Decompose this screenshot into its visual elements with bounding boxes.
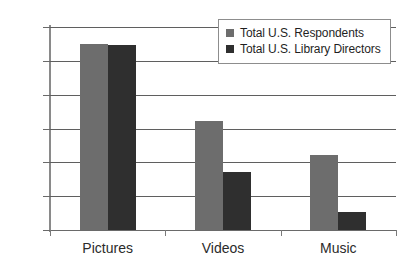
- y-axis-tick: [43, 162, 50, 163]
- gridline: [50, 230, 396, 231]
- y-axis-tick: [43, 129, 50, 130]
- bar-chart: 0%10%20%30%40%50%60% PicturesVideosMusic…: [0, 0, 410, 273]
- chart-legend: Total U.S. Respondents Total U.S. Librar…: [218, 19, 391, 64]
- y-axis-tick: [43, 95, 50, 96]
- x-axis-tick: [396, 230, 397, 236]
- y-axis-tick: [43, 196, 50, 197]
- legend-item-library-directors: Total U.S. Library Directors: [226, 41, 381, 57]
- legend-swatch-gray-icon: [226, 29, 234, 37]
- x-axis-tick: [281, 230, 282, 236]
- bar-music-series-0: [310, 155, 338, 230]
- x-axis-label-pictures: Pictures: [82, 240, 133, 256]
- y-axis-tick: [43, 230, 50, 231]
- bar-pictures-series-1: [108, 45, 136, 230]
- bar-videos-series-0: [195, 121, 223, 230]
- x-axis-label-videos: Videos: [202, 240, 245, 256]
- y-axis-tick: [43, 27, 50, 28]
- legend-label-respondents: Total U.S. Respondents: [240, 25, 364, 41]
- x-axis-label-music: Music: [320, 240, 357, 256]
- bar-music-series-1: [338, 212, 366, 230]
- x-axis-tick: [50, 230, 51, 236]
- bar-videos-series-1: [223, 172, 251, 230]
- legend-label-library-directors: Total U.S. Library Directors: [240, 41, 381, 57]
- bar-pictures-series-0: [80, 44, 108, 230]
- y-axis-tick: [43, 61, 50, 62]
- legend-swatch-dark-icon: [226, 45, 234, 53]
- x-axis-tick: [165, 230, 166, 236]
- legend-item-respondents: Total U.S. Respondents: [226, 25, 381, 41]
